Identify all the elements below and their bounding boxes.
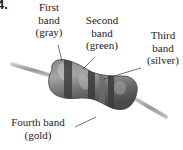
label-fourth-line2: (gold) bbox=[6, 129, 70, 142]
label-fourth-band: Fourth band (gold) bbox=[6, 116, 70, 141]
leader-first bbox=[58, 45, 62, 61]
label-first-band: First band (gray) bbox=[31, 1, 67, 39]
label-first-line1: First bbox=[31, 1, 67, 14]
band-first-gray bbox=[64, 56, 72, 104]
band-third-silver bbox=[99, 70, 105, 106]
label-second-line1: Second bbox=[82, 14, 122, 27]
leader-second bbox=[83, 58, 94, 69]
right-lead bbox=[134, 98, 166, 117]
leader-fourth bbox=[75, 117, 96, 127]
band-second-green bbox=[88, 60, 95, 104]
label-third-band: Third band (silver) bbox=[142, 29, 183, 67]
label-second-band: Second band (green) bbox=[82, 14, 122, 52]
band-fourth-gold bbox=[108, 72, 114, 112]
left-lead bbox=[12, 64, 52, 76]
label-third-line3: (silver) bbox=[142, 54, 183, 67]
label-second-line2: band bbox=[82, 27, 122, 40]
label-first-line3: (gray) bbox=[31, 26, 67, 39]
label-first-line2: band bbox=[31, 14, 67, 27]
label-fourth-line1: Fourth band bbox=[6, 116, 70, 129]
label-third-line2: band bbox=[142, 42, 183, 55]
label-third-line1: Third bbox=[142, 29, 183, 42]
resistor-body bbox=[40, 56, 140, 120]
label-second-line3: (green) bbox=[82, 39, 122, 52]
